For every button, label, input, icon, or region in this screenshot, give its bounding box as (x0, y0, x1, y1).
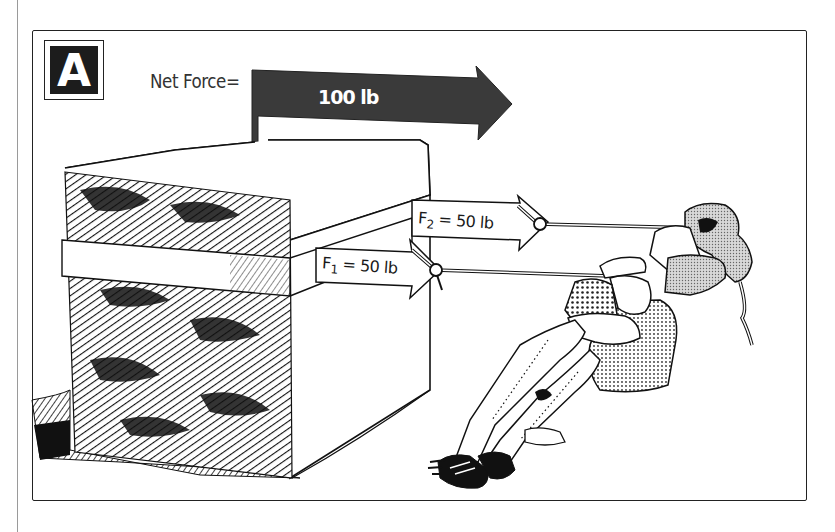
stone-block (62, 140, 430, 478)
force-f1-equals: = (337, 255, 360, 275)
net-force-value: 100 lb (318, 86, 378, 108)
net-force-label: Net Force= (150, 70, 240, 92)
illustration-canvas (0, 0, 835, 532)
force-f2-equals: = (433, 210, 456, 230)
force-f1-value: 50 lb (359, 256, 398, 278)
force-f2-value: 50 lb (455, 211, 494, 233)
